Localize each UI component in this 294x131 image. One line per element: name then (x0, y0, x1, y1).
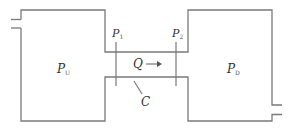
conductance-leader (134, 81, 142, 94)
label-conductance: C (141, 95, 150, 109)
vessel-pipe-diagram: PU PD P1 P2 Q C (0, 0, 294, 131)
label-tap-p2: P2 (171, 27, 183, 40)
flow-arrow-icon (146, 61, 162, 67)
label-flow: Q (133, 57, 143, 71)
label-tap-p1: P1 (111, 27, 123, 40)
label-upstream-pressure: PU (56, 62, 70, 76)
label-downstream-pressure: PD (226, 62, 240, 76)
